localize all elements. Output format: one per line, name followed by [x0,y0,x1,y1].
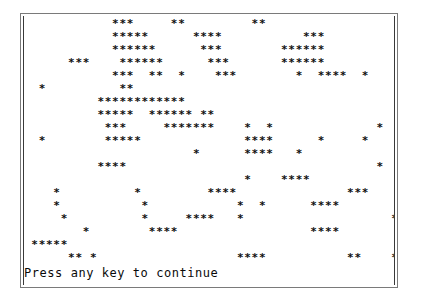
console-text-area[interactable]: *** ** ** ***** **** *** ****** *** ****… [24,16,394,285]
screen-surface: *** ** ** ***** **** *** ****** *** ****… [0,0,422,304]
cell-grid-row: ** * **** ** * ** [24,250,394,265]
press-any-key-prompt[interactable]: Press any key to continue [24,266,218,280]
